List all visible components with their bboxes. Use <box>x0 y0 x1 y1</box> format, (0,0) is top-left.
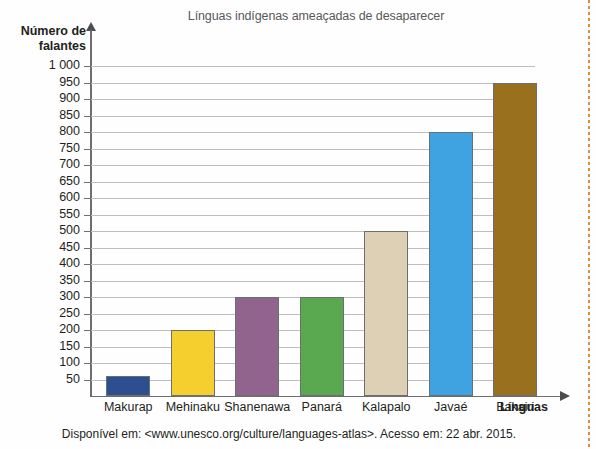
y-tick-mark <box>84 314 91 315</box>
y-tick-mark <box>84 380 91 381</box>
y-tick-label: 50 <box>0 373 80 386</box>
y-tick-mark <box>84 99 91 100</box>
y-axis-title-line2: falantes <box>0 39 86 54</box>
page-cut-marker <box>588 0 590 449</box>
bar-mehinaku <box>171 330 215 396</box>
chart-page: Línguas indígenas ameaçadas de desaparec… <box>0 0 596 449</box>
y-tick-mark <box>84 264 91 265</box>
y-tick-mark <box>84 165 91 166</box>
y-axis-title-line1: Número de <box>0 24 86 39</box>
y-tick-label: 850 <box>0 109 80 122</box>
y-tick-mark <box>84 215 91 216</box>
y-tick-label: 250 <box>0 307 80 320</box>
y-tick-label: 700 <box>0 158 80 171</box>
y-axis-line <box>90 30 92 396</box>
y-tick-label: 800 <box>0 125 80 138</box>
y-tick-label: 650 <box>0 175 80 188</box>
y-tick-mark <box>84 182 91 183</box>
source-note: Disponível em: <www.unesco.org/culture/l… <box>0 427 578 441</box>
y-axis-title: Número de falantes <box>0 24 86 54</box>
y-tick-mark <box>84 297 91 298</box>
y-tick-mark <box>84 330 91 331</box>
gridline <box>91 116 535 117</box>
y-tick-mark <box>84 347 91 348</box>
x-axis-title: Línguas <box>500 400 548 414</box>
y-tick-mark <box>84 231 91 232</box>
y-tick-mark <box>84 149 91 150</box>
y-tick-mark <box>84 363 91 364</box>
y-tick-mark <box>84 198 91 199</box>
y-tick-mark <box>84 66 91 67</box>
y-tick-mark <box>84 83 91 84</box>
y-tick-mark <box>84 248 91 249</box>
y-tick-label: 150 <box>0 340 80 353</box>
y-tick-mark <box>84 116 91 117</box>
y-tick-label: 200 <box>0 323 80 336</box>
y-tick-label: 750 <box>0 142 80 155</box>
gridline <box>91 99 535 100</box>
bar-kalapalo <box>364 231 408 396</box>
bar-javaé <box>429 132 473 396</box>
y-tick-label: 350 <box>0 274 80 287</box>
y-tick-label: 100 <box>0 356 80 369</box>
y-tick-label: 500 <box>0 224 80 237</box>
y-tick-mark <box>84 132 91 133</box>
y-tick-label: 1 000 <box>0 59 80 72</box>
y-tick-label: 950 <box>0 76 80 89</box>
y-tick-label: 900 <box>0 92 80 105</box>
y-tick-label: 550 <box>0 208 80 221</box>
gridline <box>91 66 535 67</box>
bar-panará <box>300 297 344 396</box>
y-tick-label: 400 <box>0 257 80 270</box>
bar-shanenawa <box>235 297 279 396</box>
chart-title: Línguas indígenas ameaçadas de desaparec… <box>96 9 536 23</box>
gridline <box>91 83 535 84</box>
bar-bakairi <box>493 83 537 397</box>
y-tick-label: 300 <box>0 290 80 303</box>
y-tick-mark <box>84 281 91 282</box>
bar-makurap <box>106 376 150 396</box>
y-tick-label: 450 <box>0 241 80 254</box>
y-tick-label: 600 <box>0 191 80 204</box>
